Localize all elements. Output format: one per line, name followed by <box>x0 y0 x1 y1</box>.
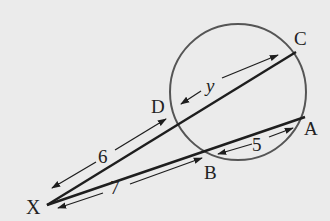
measure-label-XD: 6 <box>98 146 108 167</box>
measure-label-BA: 5 <box>252 134 262 155</box>
diagram-svg: X D C B A 6 y 7 5 <box>0 0 330 221</box>
point-label-C: C <box>294 28 307 49</box>
measure-label-DC: y <box>204 75 215 96</box>
dimension-arrow-y-b <box>222 55 278 78</box>
measure-label-XB: 7 <box>110 177 120 198</box>
point-label-X: X <box>26 196 41 218</box>
secant-diagram: X D C B A 6 y 7 5 <box>0 0 330 221</box>
dimension-arrow-y-a <box>181 91 201 104</box>
dimension-arrow-7-b <box>130 158 202 184</box>
dimension-arrow-6-a <box>52 162 96 188</box>
point-label-D: D <box>151 96 165 117</box>
point-label-B: B <box>204 162 217 183</box>
dimension-arrow-6-b <box>115 119 166 150</box>
secant-XA <box>47 117 305 205</box>
point-label-A: A <box>304 118 318 139</box>
